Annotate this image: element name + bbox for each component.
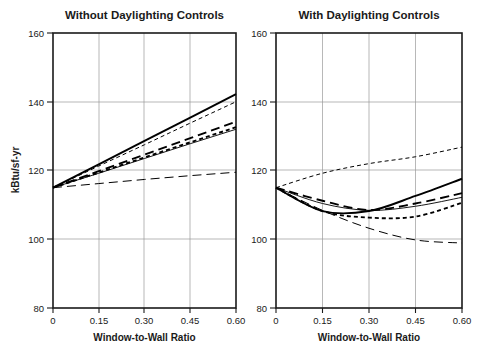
ytick-label-140-right: 140 bbox=[251, 97, 267, 108]
xtick-label-0-left: 0 bbox=[50, 315, 55, 326]
ytick-label-80-left: 80 bbox=[33, 303, 44, 314]
y-axis-title: kBtu/sf-yr bbox=[10, 147, 21, 194]
energy-use-line-chart-figure: Without Daylighting Controls 160 140 120… bbox=[0, 0, 485, 349]
ytick-label-100-left: 100 bbox=[28, 234, 44, 245]
ytick-label-100-right: 100 bbox=[251, 234, 267, 245]
figure-background bbox=[0, 0, 485, 349]
xtick-label-015-left: 0.15 bbox=[90, 315, 109, 326]
xtick-label-0-right: 0 bbox=[273, 315, 278, 326]
ytick-label-160-left: 160 bbox=[28, 28, 44, 39]
xtick-label-030-right: 0.30 bbox=[360, 315, 379, 326]
x-axis-title-right: Window-to-Wall Ratio bbox=[318, 332, 420, 343]
ytick-label-120-left: 120 bbox=[28, 165, 44, 176]
ytick-label-160-right: 160 bbox=[251, 28, 267, 39]
ytick-label-120-right: 120 bbox=[251, 165, 267, 176]
xtick-label-045-right: 0.45 bbox=[406, 315, 425, 326]
xtick-label-060-right: 0.60 bbox=[453, 315, 472, 326]
xtick-label-045-left: 0.45 bbox=[181, 315, 200, 326]
ytick-label-140-left: 140 bbox=[28, 97, 44, 108]
panel-title-right: With Daylighting Controls bbox=[298, 9, 439, 21]
ytick-label-80-right: 80 bbox=[256, 303, 267, 314]
xtick-label-060-left: 0.60 bbox=[227, 315, 246, 326]
panel-title-left: Without Daylighting Controls bbox=[65, 9, 224, 21]
xtick-label-015-right: 0.15 bbox=[313, 315, 332, 326]
xtick-label-030-left: 0.30 bbox=[135, 315, 154, 326]
x-axis-title-left: Window-to-Wall Ratio bbox=[93, 332, 195, 343]
